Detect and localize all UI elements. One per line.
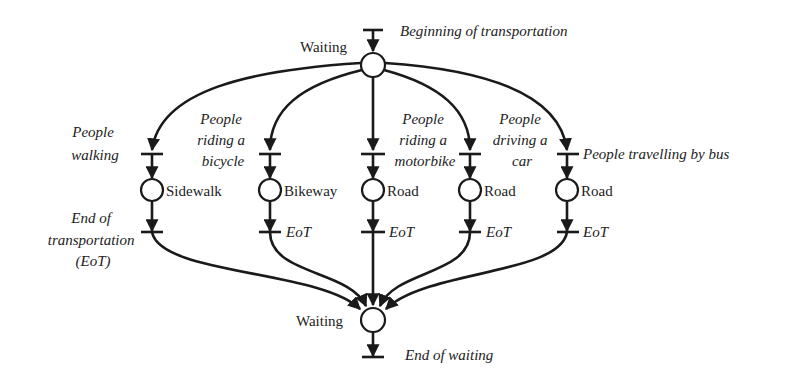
- arcs-to-bottom-waiting: [152, 232, 567, 309]
- label-road-bus: Road: [581, 183, 613, 199]
- label-eot-bus: EoT: [582, 224, 610, 240]
- label-end-of-waiting: End of waiting: [404, 347, 494, 363]
- label-bikeway: Bikeway: [284, 183, 338, 199]
- place-road-motorbike: [362, 179, 384, 201]
- place-road-car: [459, 179, 481, 201]
- label-waiting-bottom: Waiting: [296, 313, 344, 329]
- label-end-of-transportation: End of transportation (EoT): [48, 210, 138, 270]
- place-waiting-bottom: [361, 308, 385, 332]
- label-eot-motorbike: EoT: [388, 224, 416, 240]
- transition-end-of-waiting: [362, 332, 384, 357]
- label-people-travelling-bus: People travelling by bus: [582, 146, 729, 162]
- transition-beginning-of-transportation: [363, 30, 383, 51]
- place-bikeway: [259, 179, 281, 201]
- label-beginning-of-transportation: Beginning of transportation: [400, 23, 568, 39]
- branch-car: [459, 154, 481, 232]
- label-sidewalk: Sidewalk: [166, 183, 222, 199]
- label-road-motorbike: Road: [387, 183, 419, 199]
- label-people-riding-motorbike: People riding a motorbike: [395, 111, 456, 169]
- label-waiting-top: Waiting: [300, 39, 348, 55]
- label-people-driving-car: People driving a car: [493, 111, 551, 169]
- label-eot-car: EoT: [485, 224, 513, 240]
- petri-net-diagram: Beginning of transportation Waiting Peop…: [0, 0, 794, 385]
- branch-bus: [556, 154, 579, 232]
- place-sidewalk: [141, 179, 163, 201]
- place-road-bus: [556, 179, 578, 201]
- place-waiting-top: [361, 53, 385, 77]
- branch-bicycle: [259, 154, 281, 232]
- label-people-riding-bicycle: People riding a bicycle: [197, 111, 249, 169]
- label-road-car: Road: [484, 183, 516, 199]
- branch-walking: [141, 154, 163, 232]
- label-eot-bicycle: EoT: [285, 224, 313, 240]
- label-people-walking: People walking: [71, 124, 119, 163]
- branch-motorbike: [361, 154, 385, 232]
